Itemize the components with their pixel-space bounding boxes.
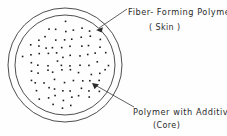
additive-dot xyxy=(73,29,75,31)
additive-dot xyxy=(78,95,80,97)
additive-dot xyxy=(57,60,59,62)
additive-dot xyxy=(47,69,49,71)
additive-dot xyxy=(52,47,54,49)
additive-dot xyxy=(89,30,91,32)
additive-dot xyxy=(45,47,47,49)
additive-dot xyxy=(30,54,32,56)
additive-dot xyxy=(99,73,101,75)
additive-dot xyxy=(56,52,58,54)
additive-particle-dots xyxy=(22,21,109,109)
additive-dot xyxy=(61,65,63,67)
additive-dot xyxy=(65,21,67,23)
core-leader-line xyxy=(92,83,134,107)
additive-dot xyxy=(82,80,84,82)
additive-dot xyxy=(69,90,71,92)
additive-dot xyxy=(69,55,71,57)
additive-dot xyxy=(99,91,101,93)
additive-dot xyxy=(98,80,100,82)
additive-dot xyxy=(54,95,56,97)
additive-dot xyxy=(80,36,82,38)
additive-dot xyxy=(31,62,33,64)
additive-dot xyxy=(61,47,63,49)
additive-dot xyxy=(70,69,72,71)
additive-dot xyxy=(44,36,46,38)
additive-dot xyxy=(108,65,110,67)
additive-dot xyxy=(64,39,66,41)
core-label-title: Polymer with Additive xyxy=(133,108,227,116)
additive-dot xyxy=(36,90,38,92)
additive-dot xyxy=(88,65,90,67)
additive-dot xyxy=(87,54,89,56)
additive-dot xyxy=(64,82,66,84)
additive-dot xyxy=(65,31,67,33)
additive-dot xyxy=(61,69,63,71)
additive-dot xyxy=(105,52,107,54)
additive-dot xyxy=(89,80,91,82)
additive-dot xyxy=(30,44,32,46)
additive-dot xyxy=(94,52,96,54)
additive-dot xyxy=(88,96,90,98)
additive-dot xyxy=(71,38,73,40)
additive-dot xyxy=(81,88,83,90)
additive-dot xyxy=(69,45,71,47)
additive-dot xyxy=(79,55,81,57)
additive-dot xyxy=(31,70,33,72)
additive-dot xyxy=(71,96,73,98)
core-label-subtitle: (Core) xyxy=(153,122,180,130)
core-arrowhead-icon xyxy=(92,83,99,89)
skin-label-title: Fiber- Forming Polymer xyxy=(128,8,227,16)
additive-dot xyxy=(38,45,40,47)
additive-dot xyxy=(69,65,71,67)
additive-dot xyxy=(38,98,40,100)
additive-dot xyxy=(48,53,50,55)
core-leader-stroke xyxy=(95,85,134,107)
additive-dot xyxy=(43,82,45,84)
additive-dot xyxy=(55,29,57,31)
additive-dot xyxy=(79,64,81,66)
fiber-cross-section-group xyxy=(8,8,122,122)
skin-leader-stroke xyxy=(99,9,127,28)
additive-dot xyxy=(88,90,90,92)
skin-label-subtitle: ( Skin ) xyxy=(149,24,181,32)
additive-dot xyxy=(38,53,40,55)
additive-dot xyxy=(63,100,65,102)
additive-dot xyxy=(104,69,106,71)
outer-circle xyxy=(8,8,122,122)
additive-dot xyxy=(55,39,57,41)
additive-dot xyxy=(37,64,39,66)
additive-dot xyxy=(81,27,83,29)
additive-dot xyxy=(99,46,101,48)
additive-dot xyxy=(52,104,54,106)
additive-dot xyxy=(73,80,75,82)
additive-dot xyxy=(22,56,24,58)
additive-dot xyxy=(47,65,49,67)
additive-dot xyxy=(62,57,64,59)
additive-dot xyxy=(54,88,56,90)
additive-dot xyxy=(31,80,33,82)
additive-dot xyxy=(48,28,50,30)
additive-dot xyxy=(100,39,102,41)
additive-dot xyxy=(62,90,64,92)
additive-dot xyxy=(78,72,80,74)
additive-dot xyxy=(96,61,98,63)
additive-dot xyxy=(52,71,54,73)
additive-dot xyxy=(54,79,56,81)
additive-dot xyxy=(48,97,50,99)
additive-dot xyxy=(62,107,64,109)
figure-container: Fiber- Forming Polymer ( Skin ) Polymer … xyxy=(0,0,227,136)
additive-dot xyxy=(91,74,93,76)
additive-dot xyxy=(37,72,39,74)
additive-dot xyxy=(70,105,72,107)
additive-dot xyxy=(81,45,83,47)
additive-dot xyxy=(34,82,36,84)
additive-dot xyxy=(48,87,50,89)
additive-dot xyxy=(88,45,90,47)
additive-dot xyxy=(90,35,92,37)
additive-dot xyxy=(38,39,40,41)
